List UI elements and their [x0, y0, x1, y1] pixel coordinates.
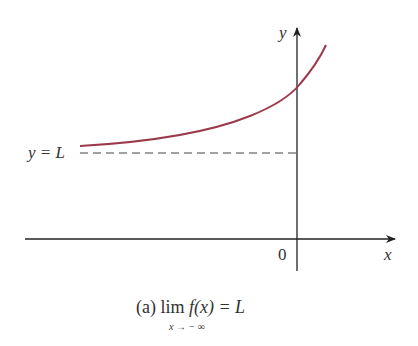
figure-caption: (a) lim f(x) = L: [136, 297, 245, 318]
diagram-canvas: [0, 0, 418, 346]
x-axis-label: x: [384, 245, 392, 265]
function-curve: [80, 45, 326, 146]
limit-diagram: y x 0 y = L (a) lim f(x) = L x → − ∞: [0, 0, 418, 346]
y-axis-label: y: [279, 23, 287, 43]
caption-equals: = L: [214, 297, 245, 317]
origin-label: 0: [278, 245, 287, 265]
caption-subscript: x → − ∞: [169, 321, 205, 332]
asymptote-label: y = L: [28, 143, 65, 163]
caption-prefix: (a) lim: [136, 297, 184, 317]
caption-function: f(x): [189, 297, 214, 317]
